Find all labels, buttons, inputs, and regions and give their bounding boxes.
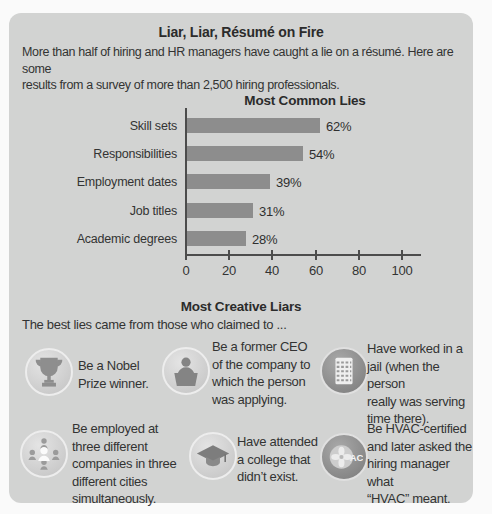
bar bbox=[186, 146, 303, 161]
creative-liar-text: Be a Nobel Prize winner. bbox=[78, 357, 149, 392]
infographic-card: Liar, Liar, Résumé on Fire More than hal… bbox=[9, 13, 473, 503]
x-axis-tick-label: 20 bbox=[209, 263, 249, 278]
page: { "header": { "title": "Liar, Liar, Résu… bbox=[0, 0, 492, 514]
bar-category-label: Employment dates bbox=[73, 174, 177, 189]
x-axis-tick-label: 100 bbox=[382, 263, 422, 278]
bar-value-label: 54% bbox=[309, 146, 334, 161]
x-axis-tick-label: 80 bbox=[339, 263, 379, 278]
graduation-cap-icon bbox=[189, 432, 237, 480]
x-axis-tick-label: 40 bbox=[252, 263, 292, 278]
multiple-people-icon bbox=[20, 430, 68, 478]
infographic-intro: More than half of hiring and HR managers… bbox=[22, 44, 474, 94]
chart-title: Most Common Lies bbox=[185, 93, 425, 108]
infographic-title: Liar, Liar, Résumé on Fire bbox=[9, 24, 473, 40]
most-common-lies-bar-chart: Skill sets62%Responsibilities54%Employme… bbox=[9, 108, 473, 293]
bar-category-label: Skill sets bbox=[73, 118, 177, 133]
bar-category-label: Job titles bbox=[73, 203, 177, 218]
creative-liar-text: Be a former CEO of the company to which … bbox=[212, 338, 310, 408]
creative-liar-text: Have attended a college that didn’t exis… bbox=[237, 433, 318, 486]
bar-category-label: Academic degrees bbox=[73, 231, 177, 246]
trophy-icon bbox=[25, 348, 73, 396]
creative-liar-text: Be HVAC-certified and later asked the hi… bbox=[367, 420, 473, 508]
ceo-podium-icon bbox=[162, 347, 210, 395]
bar bbox=[186, 203, 253, 218]
bar bbox=[186, 174, 270, 189]
creative-liar-text: Have worked in a jail (when the person r… bbox=[367, 340, 473, 428]
x-axis-tick bbox=[185, 250, 187, 260]
creative-liar-text: Be employed at three different companies… bbox=[72, 420, 176, 508]
bar-category-label: Responsibilities bbox=[73, 146, 177, 161]
x-axis-tick-label: 60 bbox=[296, 263, 336, 278]
creative-liars-title: Most Creative Liars bbox=[9, 299, 473, 314]
x-axis-tick bbox=[401, 250, 403, 260]
bar-value-label: 39% bbox=[276, 174, 301, 189]
svg-text:AC: AC bbox=[350, 452, 363, 463]
bar bbox=[186, 231, 246, 246]
x-axis-line bbox=[185, 254, 421, 256]
y-axis-line bbox=[185, 108, 187, 256]
bar bbox=[186, 118, 320, 133]
x-axis-tick bbox=[271, 250, 273, 260]
x-axis-tick bbox=[358, 250, 360, 260]
bar-value-label: 31% bbox=[259, 203, 284, 218]
x-axis-tick-label: 0 bbox=[166, 263, 206, 278]
jail-window-icon bbox=[320, 347, 368, 395]
bar-value-label: 62% bbox=[326, 118, 351, 133]
x-axis-tick bbox=[315, 250, 317, 260]
creative-liars-intro: The best lies came from those who claime… bbox=[22, 317, 462, 332]
x-axis-tick bbox=[228, 250, 230, 260]
hvac-fan-icon: AC bbox=[320, 433, 368, 481]
bar-value-label: 28% bbox=[252, 231, 277, 246]
